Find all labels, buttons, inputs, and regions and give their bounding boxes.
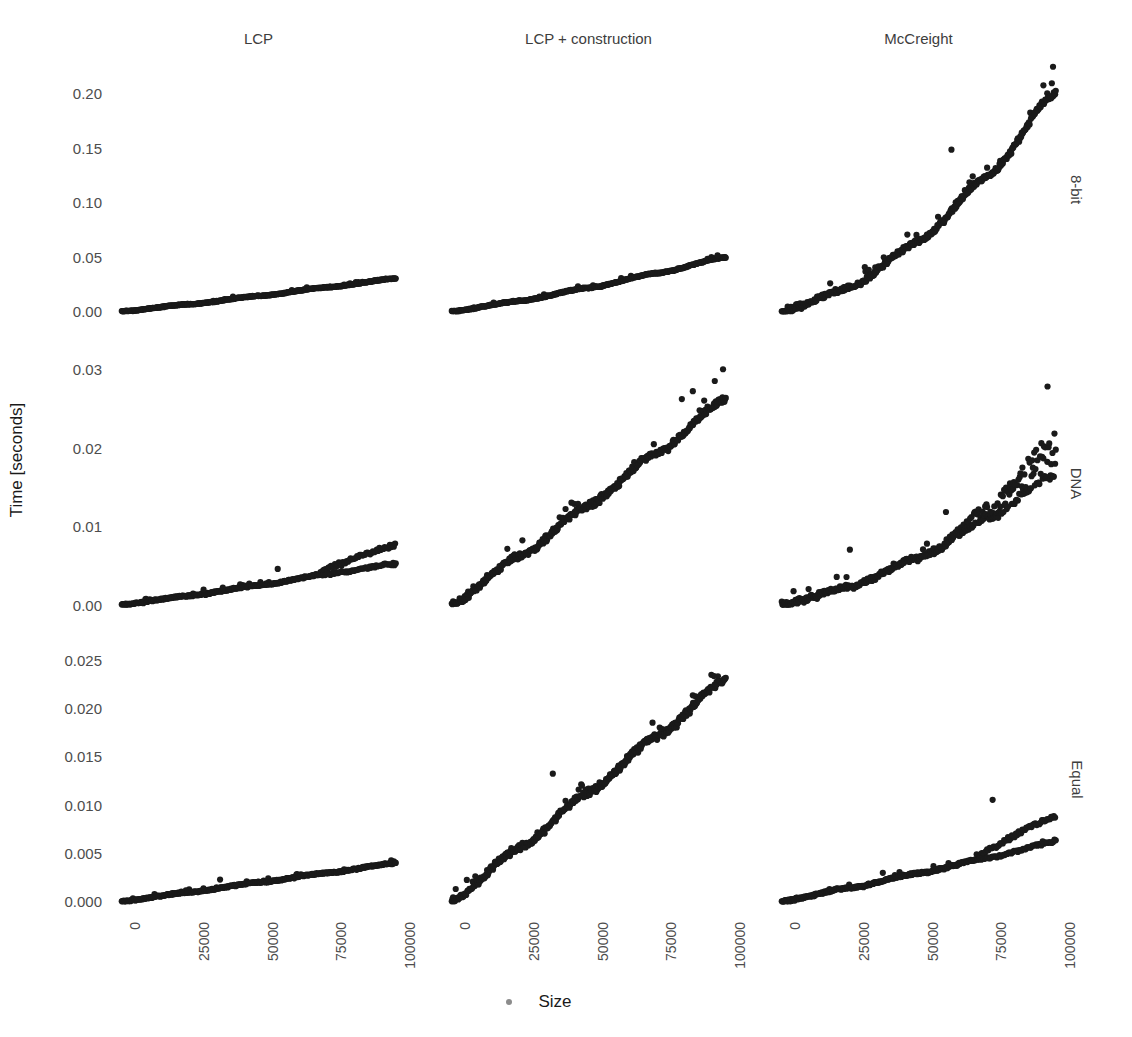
y-tick-label: 0.02	[34, 439, 102, 456]
scatter-points	[773, 648, 1064, 910]
x-tick-label: 100000	[402, 922, 418, 969]
x-tick-label: 75000	[663, 922, 679, 961]
panel-lcp-dna	[113, 352, 404, 614]
x-axis-title-label: Size	[538, 992, 571, 1011]
y-tick-label: 0.010	[34, 796, 102, 813]
row-strip-label-1: DNA	[1064, 352, 1090, 614]
y-tick-label: 0.005	[34, 844, 102, 861]
column-strip-label-0: LCP	[113, 28, 404, 50]
x-tick-label: 0	[457, 922, 473, 930]
x-tick-label: 75000	[993, 922, 1009, 961]
y-axis-ticks-row-1: 0.000.010.020.03	[34, 352, 102, 614]
x-tick-label: 50000	[925, 922, 941, 961]
y-axis-ticks-row-0: 0.000.050.100.150.20	[34, 58, 102, 320]
y-tick-label: 0.000	[34, 893, 102, 910]
x-tick-label: 50000	[265, 922, 281, 961]
scatter-points	[113, 58, 404, 320]
y-tick-label: 0.15	[34, 139, 102, 156]
y-tick-label: 0.025	[34, 651, 102, 668]
scatter-points	[113, 648, 404, 910]
scatter-points	[773, 352, 1064, 614]
scatter-points	[443, 648, 734, 910]
row-strip-label-text: 8-bit	[1069, 174, 1086, 203]
y-tick-label: 0.00	[34, 596, 102, 613]
y-tick-label: 0.05	[34, 248, 102, 265]
facet-scatter-chart: Time [seconds] Size LCPLCP + constructio…	[0, 0, 1132, 1037]
x-axis-ticks-col-2: 0250005000075000100000	[773, 922, 1064, 992]
x-tick-label: 25000	[196, 922, 212, 961]
x-axis-ticks-col-0: 0250005000075000100000	[113, 922, 404, 992]
y-tick-label: 0.020	[34, 699, 102, 716]
x-tick-label: 75000	[333, 922, 349, 961]
panel-lcp-construction-equal	[443, 648, 734, 910]
x-tick-label: 25000	[526, 922, 542, 961]
x-tick-label: 100000	[732, 922, 748, 969]
row-strip-label-2: Equal	[1064, 648, 1090, 910]
y-axis-title: Time [seconds]	[0, 0, 34, 920]
panel-lcp-8-bit	[113, 58, 404, 320]
scatter-points	[443, 352, 734, 614]
panel-mccreight-dna	[773, 352, 1064, 614]
scatter-points	[113, 352, 404, 614]
x-tick-label: 100000	[1062, 922, 1078, 969]
row-strip-label-text: DNA	[1069, 467, 1086, 499]
y-tick-label: 0.00	[34, 303, 102, 320]
scatter-points	[773, 58, 1064, 320]
y-axis-ticks-row-2: 0.0000.0050.0100.0150.0200.025	[34, 648, 102, 910]
panel-lcp-construction-dna	[443, 352, 734, 614]
y-tick-label: 0.01	[34, 518, 102, 535]
y-tick-label: 0.20	[34, 84, 102, 101]
panel-lcp-construction-8-bit	[443, 58, 734, 320]
scatter-points	[443, 58, 734, 320]
x-axis-title: Size	[34, 992, 1044, 1012]
y-tick-label: 0.015	[34, 748, 102, 765]
y-axis-title-label: Time [seconds]	[7, 403, 27, 518]
x-tick-label: 0	[127, 922, 143, 930]
column-strip-label-2: McCreight	[773, 28, 1064, 50]
dot-marker-icon	[506, 999, 512, 1005]
column-strip-label-1: LCP + construction	[443, 28, 734, 50]
row-strip-label-0: 8-bit	[1064, 58, 1090, 320]
x-tick-label: 25000	[856, 922, 872, 961]
panel-mccreight-8-bit	[773, 58, 1064, 320]
y-tick-label: 0.03	[34, 361, 102, 378]
y-tick-label: 0.10	[34, 194, 102, 211]
x-tick-label: 50000	[595, 922, 611, 961]
x-tick-label: 0	[787, 922, 803, 930]
x-axis-ticks-col-1: 0250005000075000100000	[443, 922, 734, 992]
row-strip-label-text: Equal	[1069, 760, 1086, 798]
panel-mccreight-equal	[773, 648, 1064, 910]
panel-lcp-equal	[113, 648, 404, 910]
